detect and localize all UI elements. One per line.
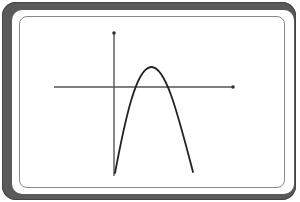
- parabola-curve: [115, 67, 193, 173]
- graph: [0, 0, 300, 202]
- y-axis-arrow-icon: [112, 31, 116, 35]
- x-axis-arrow-icon: [231, 85, 235, 89]
